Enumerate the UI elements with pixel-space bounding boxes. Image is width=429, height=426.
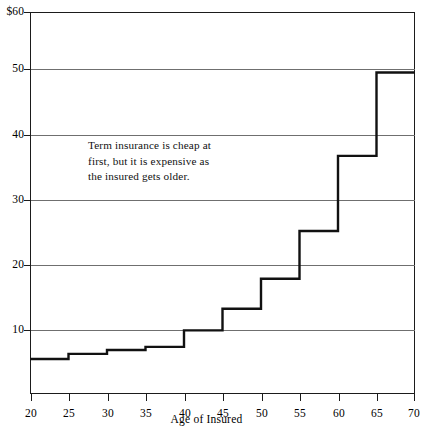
y-tick-mark-30 [24, 200, 31, 201]
note-line-2: first, but it is expensive as [88, 154, 278, 170]
x-tick-mark-70 [414, 394, 415, 401]
y-axis-label-20-wrap: 20 [0, 259, 24, 271]
y-tick-mark-60 [24, 12, 31, 13]
x-tick-mark-40 [185, 394, 186, 401]
y-axis-label-40-wrap: 40 [0, 129, 24, 141]
y-tick-mark-10 [24, 330, 31, 331]
y-axis-label-60-wrap: $60 [0, 6, 24, 18]
x-tick-mark-20 [31, 394, 32, 401]
y-axis-label-50-wrap: 50 [0, 63, 24, 75]
y-axis-label-30-wrap: 30 [0, 194, 24, 206]
x-tick-mark-65 [377, 394, 378, 401]
y-tick-mark-50 [24, 69, 31, 70]
y-tick-mark-40 [24, 135, 31, 136]
x-tick-mark-30 [108, 394, 109, 401]
gridline-30 [30, 200, 415, 201]
chart-root: $60 50 40 30 20 10 20 25 30 35 40 45 50 [0, 0, 429, 426]
x-tick-mark-55 [300, 394, 301, 401]
y-axis-label-10-wrap: 10 [0, 324, 24, 336]
gridline-50 [30, 69, 415, 70]
note-line-1: Term insurance is cheap at [88, 138, 278, 154]
x-tick-mark-60 [339, 394, 340, 401]
y-axis-label-30: 30 [0, 194, 24, 206]
gridline-20 [30, 265, 415, 266]
y-axis-label-60: $60 [0, 6, 24, 18]
y-axis-label-20: 20 [0, 259, 24, 271]
y-tick-mark-20 [24, 265, 31, 266]
term-insurance-note: Term insurance is cheap at first, but it… [88, 138, 278, 185]
x-axis-title-wrap: Age of Insured [0, 408, 429, 420]
gridline-10 [30, 330, 415, 331]
x-tick-mark-35 [146, 394, 147, 401]
y-axis-label-40: 40 [0, 129, 24, 141]
x-axis-title: Age of Insured [171, 413, 243, 425]
gridline-40 [30, 135, 415, 136]
y-axis-label-10: 10 [0, 324, 24, 336]
x-tick-mark-50 [262, 394, 263, 401]
x-tick-mark-25 [69, 394, 70, 401]
y-axis-label-50: 50 [0, 63, 24, 75]
x-tick-mark-45 [223, 394, 224, 401]
note-line-3: the insured gets older. [88, 169, 278, 185]
